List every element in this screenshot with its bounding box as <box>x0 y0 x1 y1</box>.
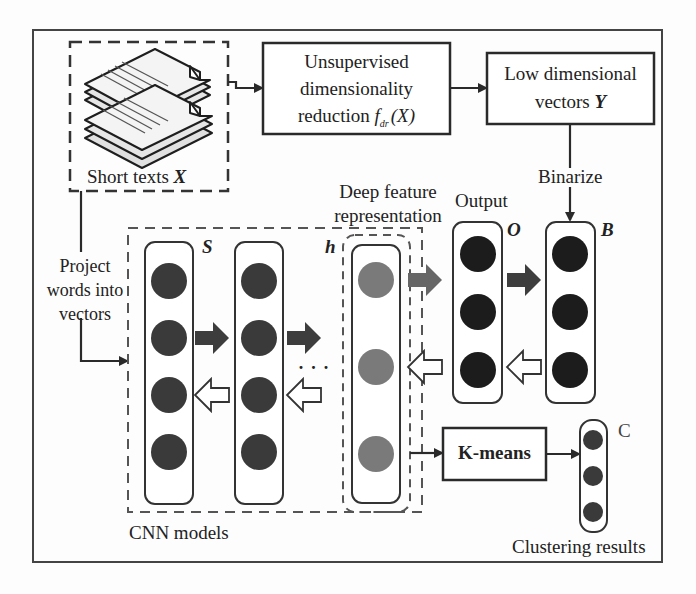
short-texts-text: Short texts <box>87 166 174 187</box>
low-dim-line-1: Low dimensional <box>487 60 654 88</box>
low-dim-line-2-text: vectors <box>535 91 595 112</box>
low-dim-var: Y <box>595 91 607 112</box>
symbol-h: h <box>325 236 336 258</box>
deep-feature-line-1: Deep feature <box>318 180 458 204</box>
forward-arrow-o-to-b <box>507 264 541 296</box>
short-texts-label: Short texts X <box>87 166 186 188</box>
binary-layer-nodes <box>552 236 588 388</box>
symbol-s: S <box>202 236 213 258</box>
forward-arrow-h-to-o <box>408 264 442 296</box>
low-dim-line-2: vectors Y <box>487 88 654 116</box>
dim-func-arg: (X) <box>391 105 415 126</box>
dim-reduction-label: Unsupervised dimensionality reduction fd… <box>263 48 450 137</box>
documents-icon <box>85 49 212 168</box>
cluster-layer-nodes <box>583 430 603 522</box>
ellipsis: · · · <box>298 358 330 379</box>
short-texts-var: X <box>174 166 187 187</box>
deep-feature-line-2: representation <box>318 204 458 228</box>
dim-line-3: reduction fdr(X) <box>263 102 450 137</box>
dim-line-3-text: reduction <box>298 105 375 126</box>
arrow-texts-to-reduction <box>228 82 262 88</box>
kmeans-label: K-means <box>443 442 546 464</box>
symbol-c: C <box>618 420 631 442</box>
dim-line-1: Unsupervised <box>263 48 450 75</box>
cnn-models-label: CNN models <box>129 522 229 544</box>
project-line-2: words into <box>38 278 132 302</box>
deep-feature-label: Deep feature representation <box>318 180 458 228</box>
low-dim-label: Low dimensional vectors Y <box>487 60 654 116</box>
output-label: Output <box>455 190 508 212</box>
clustering-results-label: Clustering results <box>512 536 646 558</box>
symbol-b: B <box>601 219 614 241</box>
symbol-o: O <box>507 219 521 241</box>
dim-line-2: dimensionality <box>263 75 450 102</box>
project-label: Project words into vectors <box>38 254 132 326</box>
binarize-label: Binarize <box>538 166 602 188</box>
project-line-1: Project <box>38 254 132 278</box>
output-layer-nodes <box>460 236 496 388</box>
project-line-3: vectors <box>38 302 132 326</box>
dim-func-sub: dr <box>380 118 389 129</box>
